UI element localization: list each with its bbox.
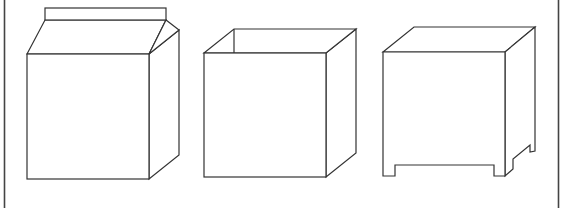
- box-with-feet-shape: [383, 27, 535, 176]
- diagram-canvas: [0, 0, 565, 208]
- carton-roof-slope: [27, 20, 166, 54]
- milk-carton-shape: [27, 8, 179, 179]
- box-drawings: [0, 0, 565, 208]
- footed-box-front-face: [383, 52, 505, 176]
- carton-ridge-strip: [45, 8, 166, 20]
- open-box-side-face: [326, 29, 356, 177]
- carton-front-face: [27, 54, 149, 179]
- open-box-shape: [204, 29, 356, 177]
- open-box-front-face: [204, 53, 326, 177]
- carton-side-face: [149, 30, 179, 179]
- footed-box-side-face: [505, 27, 535, 176]
